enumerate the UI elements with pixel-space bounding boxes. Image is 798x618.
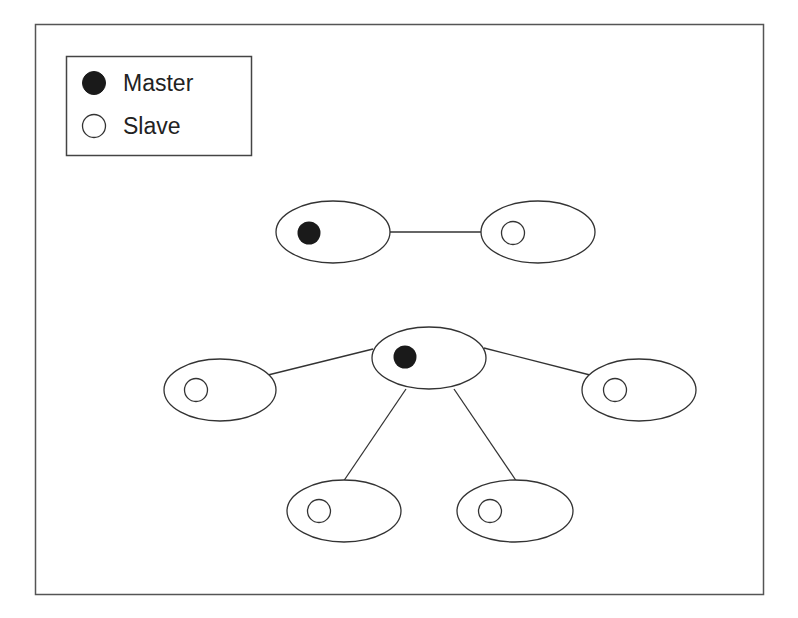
node-ellipse (457, 480, 573, 542)
node-ellipse (481, 201, 595, 263)
slave-icon (479, 500, 502, 523)
node-ellipse (582, 359, 696, 421)
node-ellipse (287, 480, 401, 542)
node-star-slave-bottom-right (457, 480, 573, 542)
node-p2p-slave (481, 201, 595, 263)
legend-label-slave: Slave (123, 113, 181, 139)
node-ellipse (276, 201, 390, 263)
slave-icon (502, 222, 525, 245)
slave-icon (604, 379, 627, 402)
master-icon (394, 346, 417, 369)
node-star-slave-left (164, 359, 276, 421)
legend-label-master: Master (123, 70, 194, 96)
legend: Master Slave (67, 57, 252, 156)
network-diagram: Master Slave (0, 0, 798, 618)
master-icon (298, 222, 321, 245)
master-legend-icon (83, 72, 106, 95)
slave-icon (308, 500, 331, 523)
node-ellipse (372, 327, 486, 389)
node-star-slave-right (582, 359, 696, 421)
node-p2p-master (276, 201, 390, 263)
slave-legend-icon (83, 115, 106, 138)
node-star-master (372, 327, 486, 389)
node-star-slave-bottom-left (287, 480, 401, 542)
node-ellipse (164, 359, 276, 421)
slave-icon (185, 379, 208, 402)
